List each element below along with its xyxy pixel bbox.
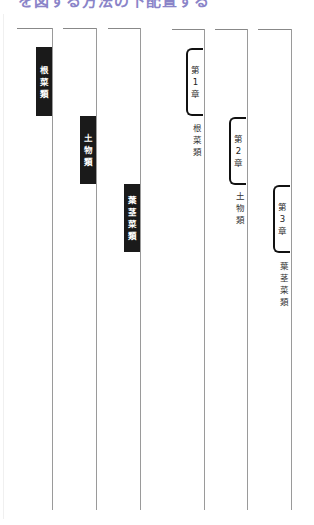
page-edge	[204, 29, 205, 510]
page-top-line	[63, 28, 97, 29]
label-char: 類	[193, 146, 202, 158]
tab-char: 2	[236, 145, 241, 157]
tab-char: 章	[191, 88, 200, 100]
tab-char: 第	[234, 133, 243, 145]
label-char: 類	[236, 214, 245, 226]
black-tab-leafy-vegetables: 葉 茎 菜 類	[124, 184, 140, 252]
chapter-tab-3: 第 3 章	[273, 185, 290, 253]
label-char: 物	[236, 202, 245, 214]
tab-char: 茎	[128, 206, 137, 218]
label-char: 根	[193, 122, 202, 134]
black-tab-root-vegetables: 根 菜 類	[36, 47, 52, 116]
chapter-label-1: 根 菜 類	[190, 122, 204, 158]
heading: を図する方法の下配置する	[18, 0, 210, 10]
label-char: 菜	[280, 284, 289, 296]
tab-char: 類	[128, 230, 137, 242]
label-char: 類	[280, 296, 289, 308]
label-char: 土	[236, 190, 245, 202]
tab-char: 菜	[40, 76, 49, 88]
tab-char: 3	[280, 213, 285, 225]
page-top-line	[215, 29, 248, 30]
page-edge-line	[3, 14, 4, 519]
page-edge	[291, 29, 292, 510]
chapter-tab-2: 第 2 章	[229, 117, 246, 185]
chapter-tab-1: 第 1 章	[186, 48, 203, 116]
tab-char: 物	[84, 144, 93, 156]
tab-char: 土	[84, 132, 93, 144]
tab-char: 章	[278, 225, 287, 237]
page-top-line	[108, 28, 141, 29]
page-edge	[96, 28, 97, 510]
black-tab-tubers: 土 物 類	[80, 116, 96, 184]
page-top-line	[17, 28, 53, 29]
page-edge	[247, 29, 248, 510]
label-char: 菜	[193, 134, 202, 146]
tab-char: 菜	[128, 218, 137, 230]
label-char: 茎	[280, 272, 289, 284]
tab-char: 根	[40, 64, 49, 76]
tab-char: 葉	[128, 194, 137, 206]
tab-char: 第	[191, 64, 200, 76]
tab-char: 1	[193, 76, 198, 88]
page-top-line	[172, 29, 205, 30]
chapter-label-2: 土 物 類	[233, 190, 247, 226]
chapter-label-3: 葉 茎 菜 類	[277, 260, 291, 308]
page-top-line	[258, 29, 292, 30]
label-char: 葉	[280, 260, 289, 272]
tab-char: 類	[40, 88, 49, 100]
page-edge	[140, 28, 141, 510]
tab-char: 章	[234, 157, 243, 169]
page-edge	[52, 28, 53, 510]
tab-char: 類	[84, 156, 93, 168]
tab-char: 第	[278, 201, 287, 213]
